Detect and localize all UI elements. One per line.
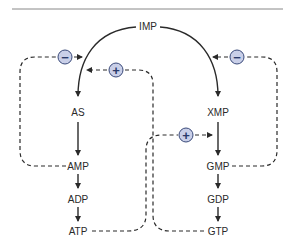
- inhibitor-badge-gmp: −: [230, 50, 244, 65]
- node-xmp: XMP: [207, 107, 229, 118]
- arrow-imp-to-xmp: [160, 27, 218, 96]
- activator-badge-atp: +: [179, 128, 193, 143]
- svg-text:+: +: [182, 128, 190, 143]
- inhibitor-badge-amp: −: [58, 50, 72, 65]
- feedback-gtp-activates: [125, 70, 204, 231]
- arrow-imp-to-as: [78, 27, 136, 96]
- feedback-atp-activates: [92, 135, 178, 231]
- node-as: AS: [71, 107, 85, 118]
- node-gmp: GMP: [207, 161, 230, 172]
- svg-text:−: −: [61, 50, 69, 65]
- feedback-amp-inhibits: [20, 57, 66, 166]
- feedback-gmp-inhibits: [232, 57, 277, 166]
- svg-text:+: +: [112, 63, 120, 78]
- node-gtp: GTP: [208, 226, 229, 237]
- activator-badge-gtp: +: [109, 63, 123, 78]
- svg-text:−: −: [233, 50, 241, 65]
- node-imp: IMP: [139, 21, 157, 32]
- node-gdp: GDP: [207, 194, 229, 205]
- purine-regulation-diagram: − + − + IMP AS AMP ADP ATP XMP GMP GDP G…: [0, 0, 293, 249]
- node-atp: ATP: [69, 226, 88, 237]
- node-adp: ADP: [68, 194, 89, 205]
- node-amp: AMP: [67, 161, 89, 172]
